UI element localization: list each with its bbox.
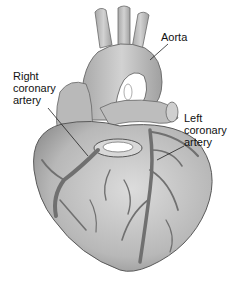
label-left-coronary-artery: Left coronary artery [184, 112, 227, 148]
label-aorta: Aorta [161, 31, 187, 43]
aorta-leader-line [150, 44, 168, 60]
aortic-branches [95, 6, 149, 50]
heart-diagram: Aorta Right coronary artery Left coronar… [0, 0, 243, 282]
label-right-coronary-artery: Right coronary artery [13, 70, 56, 106]
